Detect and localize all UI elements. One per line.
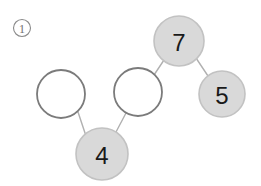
edge-seven-five — [196, 58, 208, 76]
node-label-node-seven: 7 — [172, 29, 185, 56]
node-circle-left-empty[interactable] — [37, 70, 85, 118]
edge-middle-seven — [154, 60, 164, 75]
node-left-empty[interactable] — [37, 70, 85, 118]
graph-svg: 475 1 — [0, 0, 261, 186]
node-label-node-five: 5 — [215, 82, 228, 109]
diagram-canvas: 475 1 — [0, 0, 261, 186]
edge-left-four — [78, 112, 86, 136]
marker-label: 1 — [19, 22, 25, 36]
node-label-node-four: 4 — [95, 142, 108, 169]
figure-marker: 1 — [14, 20, 31, 37]
node-circle-middle-empty[interactable] — [114, 68, 162, 116]
edge-middle-four — [116, 113, 126, 132]
nodes-layer: 475 — [37, 16, 245, 180]
node-middle-empty[interactable] — [114, 68, 162, 116]
node-node-four[interactable]: 4 — [76, 128, 128, 180]
node-node-seven[interactable]: 7 — [154, 16, 204, 66]
node-node-five[interactable]: 5 — [199, 71, 245, 117]
